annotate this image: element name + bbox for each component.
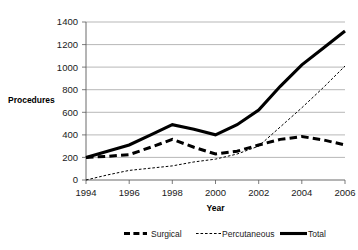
x-tick-label: 2006 [334,187,355,198]
y-axis-title: Procedures [8,95,55,105]
y-tick-label: 1400 [57,16,78,27]
legend-label-total: Total [308,229,326,239]
x-tick-labels: 1994 1996 1998 2000 2002 2004 2006 [75,187,355,198]
y-tick-label: 600 [62,107,78,118]
x-axis-title: Year [207,203,226,213]
line-chart: 1400 1200 1000 800 600 400 200 0 1994 19… [0,0,358,250]
y-tick-labels: 1400 1200 1000 800 600 400 200 0 [57,16,78,185]
x-tick-label: 2002 [248,187,269,198]
legend-label-surgical: Surgical [151,229,182,239]
chart-container: 1400 1200 1000 800 600 400 200 0 1994 19… [0,0,358,250]
chart-legend: Surgical Percutaneous Total [124,229,326,239]
x-tick-label: 1996 [119,187,140,198]
x-tick-label: 1998 [162,187,183,198]
x-tick-label: 2000 [205,187,226,198]
legend-label-percutaneous: Percutaneous [222,229,274,239]
y-tick-marks [82,22,86,180]
y-tick-label: 1000 [57,62,78,73]
x-tick-label: 1994 [75,187,96,198]
x-tick-marks [86,180,345,184]
y-tick-label: 0 [73,174,78,185]
y-tick-label: 200 [62,152,78,163]
y-tick-label: 800 [62,84,78,95]
x-tick-label: 2004 [291,187,312,198]
y-tick-label: 1200 [57,39,78,50]
y-tick-label: 400 [62,129,78,140]
